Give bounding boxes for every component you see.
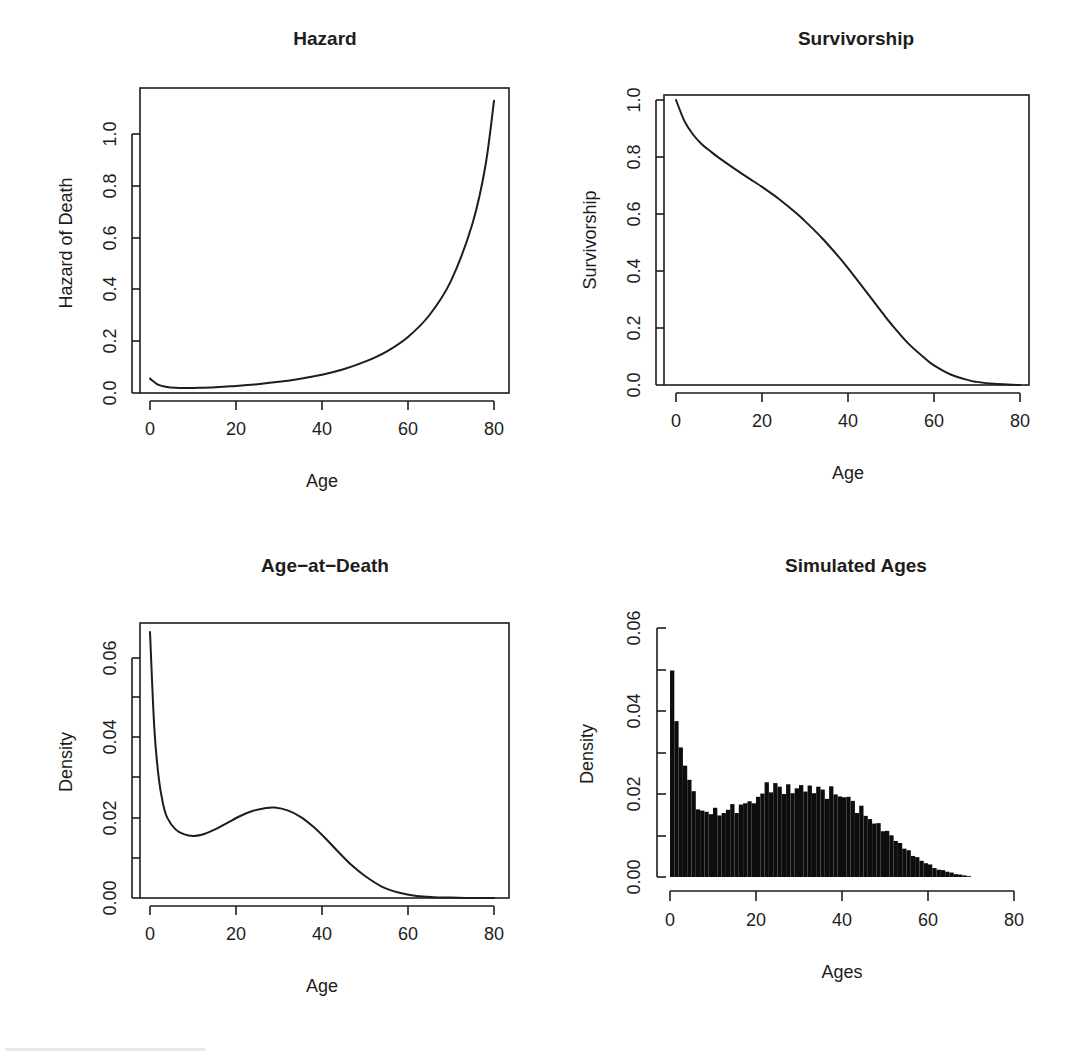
svg-text:20: 20 bbox=[226, 419, 246, 439]
svg-text:0.0: 0.0 bbox=[100, 380, 120, 405]
svg-text:40: 40 bbox=[832, 910, 852, 930]
svg-text:80: 80 bbox=[484, 419, 504, 439]
svg-text:0.0: 0.0 bbox=[624, 372, 644, 397]
y-axis-label: Density bbox=[577, 724, 597, 784]
y-axis-tick-labels: 1.0 0.8 0.6 0.4 0.2 0.0 bbox=[624, 87, 644, 397]
svg-text:0.06: 0.06 bbox=[624, 610, 644, 645]
histogram-bar bbox=[881, 831, 885, 877]
x-axis-tick-labels: 0 20 40 60 80 bbox=[145, 924, 504, 944]
histogram-bar bbox=[902, 849, 906, 877]
histogram-bar bbox=[885, 831, 889, 877]
histogram-bar bbox=[679, 747, 683, 877]
x-axis-tick-labels: 0 20 40 60 80 bbox=[665, 910, 1024, 930]
panel-title-hazard: Hazard bbox=[293, 28, 356, 49]
histogram-bar bbox=[829, 786, 833, 877]
x-axis-tick-labels: 0 20 40 60 80 bbox=[671, 411, 1030, 431]
svg-text:0.04: 0.04 bbox=[624, 693, 644, 728]
histogram-bar bbox=[962, 875, 966, 877]
histogram-bar bbox=[919, 861, 923, 877]
svg-text:0.6: 0.6 bbox=[100, 225, 120, 250]
svg-text:0.02: 0.02 bbox=[100, 800, 120, 835]
histogram-bar bbox=[786, 784, 790, 877]
x-axis-label: Age bbox=[306, 976, 338, 996]
y-axis-ticks bbox=[656, 100, 664, 385]
svg-text:0.2: 0.2 bbox=[100, 328, 120, 353]
histogram-bar bbox=[726, 810, 730, 877]
plot-frame bbox=[664, 95, 1029, 385]
histogram-bar bbox=[928, 864, 932, 877]
svg-text:0.02: 0.02 bbox=[624, 776, 644, 811]
histogram-bar bbox=[700, 811, 704, 877]
histogram-bar bbox=[954, 874, 958, 877]
histogram-bar bbox=[915, 857, 919, 877]
svg-text:0.00: 0.00 bbox=[100, 880, 120, 915]
histogram-bar bbox=[683, 766, 687, 877]
histogram-bar bbox=[950, 873, 954, 877]
svg-text:0: 0 bbox=[671, 411, 681, 431]
plot-frame bbox=[140, 623, 509, 898]
svg-text:60: 60 bbox=[398, 419, 418, 439]
survivorship-curve bbox=[676, 100, 1020, 385]
svg-text:40: 40 bbox=[312, 924, 332, 944]
panel-hazard: Hazard 1.0 0.8 0.6 0.4 0.2 0.0 bbox=[0, 0, 535, 530]
x-axis-ticks bbox=[150, 401, 494, 410]
histogram-bar bbox=[941, 870, 945, 877]
svg-text:60: 60 bbox=[924, 411, 944, 431]
histogram-bar bbox=[838, 796, 842, 877]
y-axis-label: Density bbox=[56, 732, 76, 792]
panel-title-age-at-death: Age−at−Death bbox=[261, 555, 389, 576]
survivorship-plot: Survivorship 1.0 0.8 0.6 0.4 0.2 0.0 bbox=[536, 0, 1071, 530]
histogram-bar bbox=[722, 813, 726, 877]
svg-text:20: 20 bbox=[746, 910, 766, 930]
histogram-bar bbox=[907, 850, 911, 877]
histogram-bar bbox=[911, 856, 915, 877]
y-axis-tick-labels: 0.06 0.04 0.02 0.00 bbox=[624, 610, 644, 894]
svg-text:20: 20 bbox=[226, 924, 246, 944]
x-axis-ticks bbox=[670, 891, 1014, 901]
svg-text:60: 60 bbox=[398, 924, 418, 944]
x-axis-label: Age bbox=[306, 471, 338, 491]
svg-text:0: 0 bbox=[665, 910, 675, 930]
histogram-bar bbox=[855, 813, 859, 877]
svg-text:0: 0 bbox=[145, 419, 155, 439]
histogram-bar bbox=[760, 794, 764, 877]
histogram-bar bbox=[864, 816, 868, 877]
panel-age-at-death: Age−at−Death 0.06 0.04 0.02 0.00 bbox=[0, 530, 535, 1060]
y-axis-tick-labels: 0.06 0.04 0.02 0.00 bbox=[100, 640, 120, 915]
histogram-bar bbox=[743, 803, 747, 877]
panel-survivorship: Survivorship 1.0 0.8 0.6 0.4 0.2 0.0 bbox=[536, 0, 1071, 530]
y-axis-ticks bbox=[132, 134, 140, 393]
histogram-bar bbox=[898, 843, 902, 877]
svg-text:40: 40 bbox=[312, 419, 332, 439]
svg-text:60: 60 bbox=[918, 910, 938, 930]
svg-text:0.8: 0.8 bbox=[624, 144, 644, 169]
age-at-death-curve bbox=[150, 632, 494, 898]
svg-text:0.4: 0.4 bbox=[100, 276, 120, 301]
histogram-bar bbox=[692, 791, 696, 877]
histogram-bar bbox=[967, 876, 971, 877]
histogram-bar bbox=[747, 801, 751, 877]
histogram-bar bbox=[799, 785, 803, 877]
svg-text:0.06: 0.06 bbox=[100, 640, 120, 675]
histogram-bar bbox=[704, 812, 708, 877]
histogram-bar bbox=[859, 806, 863, 877]
histogram-bar bbox=[674, 721, 678, 877]
histogram-bar bbox=[717, 815, 721, 877]
histogram-bar bbox=[868, 819, 872, 877]
plot-frame bbox=[140, 88, 509, 393]
histogram-bar bbox=[713, 808, 717, 877]
panel-title-simulated-ages: Simulated Ages bbox=[785, 555, 927, 576]
svg-text:0.2: 0.2 bbox=[624, 315, 644, 340]
histogram-bar bbox=[670, 671, 674, 877]
svg-text:40: 40 bbox=[838, 411, 858, 431]
histogram-bar bbox=[842, 797, 846, 877]
histogram-bar bbox=[958, 875, 962, 877]
svg-text:0: 0 bbox=[145, 924, 155, 944]
scan-artifact bbox=[5, 1048, 205, 1051]
histogram-bar bbox=[735, 813, 739, 877]
histogram-bar bbox=[773, 783, 777, 877]
panel-title-survivorship: Survivorship bbox=[798, 28, 914, 49]
histogram-bar bbox=[872, 824, 876, 877]
histogram-bar bbox=[790, 793, 794, 877]
histogram-bar bbox=[765, 782, 769, 877]
